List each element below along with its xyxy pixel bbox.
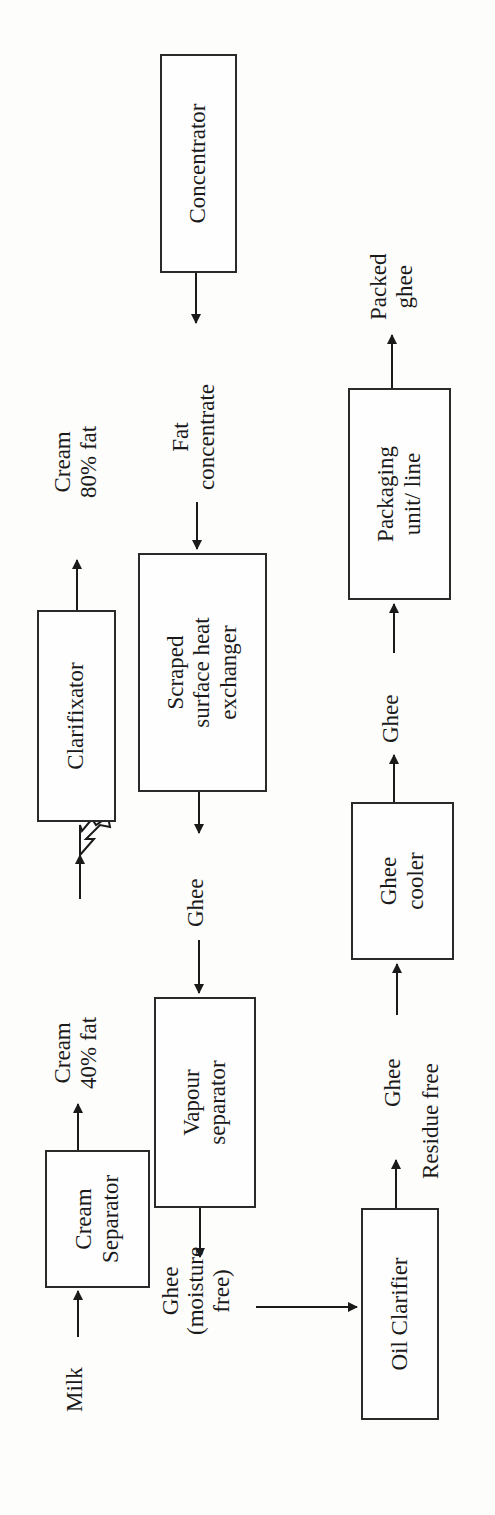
box-text: unit/ line — [400, 446, 426, 542]
label-ghee-from-cooler: Ghee — [378, 694, 404, 743]
box-text: cooler — [403, 852, 429, 909]
box-cream-separator: CreamSeparator — [45, 1150, 150, 1288]
box-text: Concentrator — [185, 103, 211, 223]
label-text: Ghee — [380, 1058, 405, 1107]
box-text: Scraped — [163, 617, 189, 727]
label-text: Milk — [62, 1367, 87, 1412]
box-text: exchanger — [216, 617, 242, 727]
label-text: Cream — [50, 1017, 76, 1089]
label-ghee-from-sshe: Ghee — [183, 878, 209, 927]
label-text: ghee — [392, 254, 418, 320]
label-text: Fat — [168, 384, 194, 490]
label-text: 80% fat — [76, 426, 102, 498]
label-fat-concentrate: Fat concentrate — [168, 384, 221, 490]
label-cream-40: Cream 40% fat — [50, 1017, 103, 1089]
box-packaging-unit: Packagingunit/ line — [348, 388, 451, 600]
box-text: Separator — [98, 1175, 124, 1263]
box-concentrator: Concentrator — [160, 54, 237, 273]
label-cream-80: Cream 80% fat — [50, 426, 103, 498]
box-text: Packaging — [373, 446, 399, 542]
label-text: (moisture — [183, 1247, 208, 1335]
label-text: Packed — [366, 254, 392, 320]
box-oil-clarifier: Oil Clarifier — [361, 1208, 439, 1420]
label-ghee-residue: Ghee — [380, 1058, 406, 1107]
cursor-icon — [80, 817, 110, 855]
box-text: separator — [205, 1060, 231, 1144]
box-text: Vapour — [179, 1060, 205, 1144]
box-ghee-cooler: Gheecooler — [351, 802, 454, 960]
label-text: 40% fat — [76, 1017, 102, 1089]
box-clarifixator: Clarifixator — [37, 610, 116, 822]
box-vapour-separator: Vapourseparator — [154, 997, 256, 1208]
label-text: Residue free — [418, 1063, 443, 1179]
box-text: surface heat — [189, 617, 215, 727]
box-text: Cream — [71, 1175, 97, 1263]
box-scraped-surface-heat-exchanger: Scraped surface heat exchanger — [138, 553, 267, 792]
box-text: Oil Clarifier — [387, 1257, 413, 1370]
label-text: Ghee — [183, 878, 208, 927]
box-text: Ghee — [376, 852, 402, 909]
box-text: Clarifixator — [63, 662, 89, 769]
label-text: concentrate — [194, 384, 220, 490]
label-text: Cream — [50, 426, 76, 498]
label-residue-free: Residue free — [418, 1063, 444, 1179]
flow-diagram: CreamSeparator Clarifixator Concentrator… — [0, 0, 495, 1515]
label-milk: Milk — [62, 1367, 88, 1412]
label-text: Ghee — [158, 1247, 183, 1335]
label-packed-ghee: Packed ghee — [366, 254, 419, 320]
label-text: free) — [209, 1247, 234, 1335]
label-ghee-moisture-free: Ghee (moisture free) — [158, 1247, 234, 1335]
label-text: Ghee — [378, 694, 403, 743]
